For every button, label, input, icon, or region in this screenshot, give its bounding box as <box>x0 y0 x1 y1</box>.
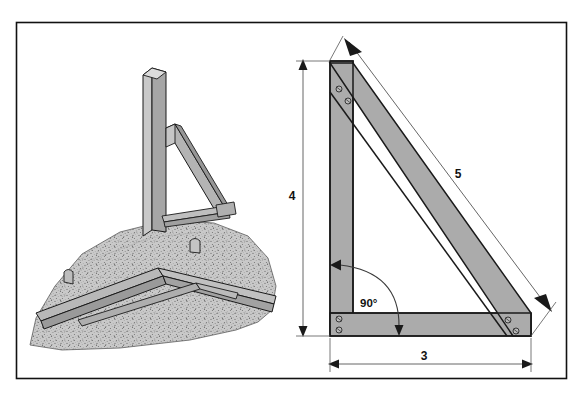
dimension-label-horizontal: 3 <box>421 349 428 363</box>
vertical-post <box>143 68 166 236</box>
technical-illustration: 4 3 5 <box>0 0 583 396</box>
dimension-label-vertical: 4 <box>289 189 296 203</box>
figure-root: 4 3 5 <box>0 0 583 396</box>
stake-left <box>64 270 73 285</box>
stake-right <box>190 239 200 254</box>
dimension-label-hypotenuse: 5 <box>455 167 462 181</box>
angle-label: 90° <box>360 297 378 309</box>
brace-foot-block <box>216 202 236 217</box>
